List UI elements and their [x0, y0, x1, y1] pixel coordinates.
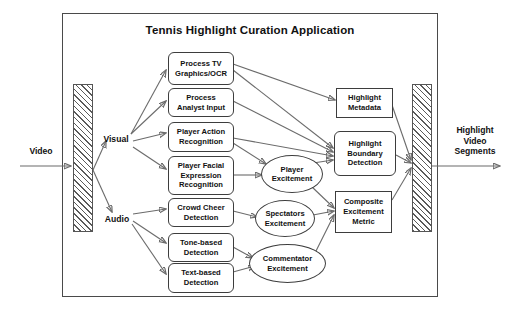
- node-player-action-recognition[interactable]: Player Action Recognition: [168, 122, 234, 152]
- diagram-canvas: Tennis Highlight Curation Application: [0, 0, 514, 313]
- node-commentator-excitement[interactable]: Commentator Excitement: [249, 244, 326, 283]
- branch-label-visual: Visual: [99, 134, 133, 145]
- input-splitter-bar: [73, 84, 93, 232]
- output-label-highlight-video-segments: Highlight Video Segments: [438, 125, 512, 157]
- node-process-tv-graphics-ocr[interactable]: Process TV Graphics/OCR: [168, 52, 234, 85]
- node-label: Player Action Recognition: [177, 127, 225, 146]
- node-label: Crowd Cheer Detection: [177, 203, 224, 222]
- node-highlight-boundary-detection[interactable]: Highlight Boundary Detection: [334, 131, 396, 176]
- node-label: Process TV Graphics/OCR: [175, 59, 227, 78]
- input-label-video: Video: [16, 146, 66, 157]
- node-label: Highlight Metadata: [348, 93, 381, 112]
- node-label: Text-based Detection: [181, 268, 221, 287]
- node-label: Composite Excitement Metric: [343, 197, 384, 226]
- node-label: Spectators Excitement: [265, 209, 306, 228]
- node-composite-excitement-metric[interactable]: Composite Excitement Metric: [335, 191, 392, 233]
- node-process-analyst-input[interactable]: Process Analyst Input: [168, 88, 234, 117]
- node-crowd-cheer-detection[interactable]: Crowd Cheer Detection: [168, 198, 234, 227]
- node-spectators-excitement[interactable]: Spectators Excitement: [255, 200, 315, 237]
- node-label: Process Analyst Input: [177, 93, 225, 112]
- node-player-facial-expression-recognition[interactable]: Player Facial Expression Recognition: [168, 156, 234, 195]
- node-tone-based-detection[interactable]: Tone-based Detection: [168, 233, 234, 262]
- node-player-excitement[interactable]: Player Excitement: [261, 155, 323, 193]
- node-label: Player Facial Expression Recognition: [178, 161, 224, 190]
- branch-label-audio: Audio: [100, 214, 134, 225]
- output-merger-bar: [412, 84, 432, 232]
- node-label: Commentator Excitement: [263, 254, 312, 273]
- diagram-title: Tennis Highlight Curation Application: [62, 24, 438, 36]
- node-label: Highlight Boundary Detection: [347, 139, 382, 168]
- node-text-based-detection[interactable]: Text-based Detection: [168, 263, 234, 293]
- node-highlight-metadata[interactable]: Highlight Metadata: [336, 88, 393, 118]
- node-label: Tone-based Detection: [180, 238, 222, 257]
- node-label: Player Excitement: [272, 165, 313, 184]
